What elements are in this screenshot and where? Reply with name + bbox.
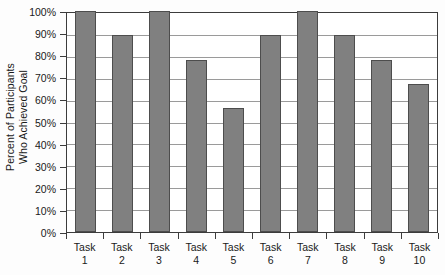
x-axis-tick-mark (103, 233, 104, 239)
y-axis-tick-label: 50% (12, 117, 56, 128)
bar-slot (141, 13, 178, 232)
y-axis-tick-label: 100% (12, 7, 56, 18)
x-axis-tick-label-line2: 6 (252, 254, 289, 267)
x-axis-tick-label-line1: Task (140, 241, 177, 254)
bar-3[interactable] (149, 11, 170, 232)
plot-area (66, 12, 438, 233)
bar-slot (67, 13, 104, 232)
x-axis-tick-mark (140, 233, 141, 239)
x-axis-tick-label-line2: 10 (401, 254, 438, 267)
bar-slot (178, 13, 215, 232)
bar-slot (400, 13, 437, 232)
x-axis-tick-label-line1: Task (215, 241, 252, 254)
x-axis-tick-label: Task7 (289, 241, 326, 273)
bar-5[interactable] (223, 108, 244, 232)
x-axis-tick-mark (364, 233, 365, 239)
bar-10[interactable] (408, 84, 429, 232)
x-axis-tick-mark (178, 233, 179, 239)
x-axis-tick-label-line1: Task (401, 241, 438, 254)
y-axis-tick-label: 90% (12, 29, 56, 40)
x-axis-tick-label: Task6 (252, 241, 289, 273)
x-axis-tick-label-line2: 1 (66, 254, 103, 267)
bar-8[interactable] (334, 35, 355, 232)
x-axis-tick-label: Task1 (66, 241, 103, 273)
y-axis-tick-label: 60% (12, 95, 56, 106)
bar-2[interactable] (112, 35, 133, 232)
bars-layer (67, 13, 437, 232)
x-axis-tick-label-line2: 7 (289, 254, 326, 267)
bar-6[interactable] (260, 35, 281, 232)
bar-slot (326, 13, 363, 232)
y-axis-tick-labels: 0%10%20%30%40%50%60%70%80%90%100% (12, 12, 56, 233)
y-axis-tick-label: 70% (12, 73, 56, 84)
y-axis-tick-label: 80% (12, 51, 56, 62)
bar-slot (252, 13, 289, 232)
x-axis-tick-label-line2: 2 (103, 254, 140, 267)
x-axis-tick-mark (438, 233, 439, 239)
x-axis-tick-label-line1: Task (178, 241, 215, 254)
x-axis-tick-labels: Task1Task2Task3Task4Task5Task6Task7Task8… (66, 241, 438, 273)
x-axis-tick-label-line2: 9 (364, 254, 401, 267)
x-axis-tick-label-line2: 5 (215, 254, 252, 267)
x-axis-tick-mark (215, 233, 216, 239)
x-axis-tick-label-line2: 4 (178, 254, 215, 267)
bar-4[interactable] (186, 60, 207, 232)
x-axis-tick-mark (289, 233, 290, 239)
bar-slot (215, 13, 252, 232)
bar-9[interactable] (371, 60, 392, 232)
x-axis-tick-label: Task4 (178, 241, 215, 273)
x-axis-tick-label-line1: Task (66, 241, 103, 254)
x-axis-tick-label-line1: Task (103, 241, 140, 254)
x-axis-tick-label: Task8 (326, 241, 363, 273)
x-axis-tick-label-line2: 3 (140, 254, 177, 267)
x-axis-tick-mark (401, 233, 402, 239)
y-axis-tick-label: 40% (12, 139, 56, 150)
x-axis-tick-label: Task5 (215, 241, 252, 273)
x-axis-tick-label-line1: Task (364, 241, 401, 254)
y-axis-tick-label: 0% (12, 228, 56, 239)
x-axis-tick-mark (326, 233, 327, 239)
x-axis-tick-label-line1: Task (252, 241, 289, 254)
bar-slot (363, 13, 400, 232)
bar-slot (289, 13, 326, 232)
x-axis-tick-mark (252, 233, 253, 239)
x-axis-tick-label: Task3 (140, 241, 177, 273)
x-axis-tick-marks (66, 233, 438, 239)
x-axis-tick-label: Task10 (401, 241, 438, 273)
y-axis-tick-label: 20% (12, 184, 56, 195)
x-axis-tick-label-line1: Task (289, 241, 326, 254)
x-axis-tick-mark (66, 233, 67, 239)
bar-chart: Percent of Participants Who Achieved Goa… (0, 0, 445, 275)
bar-slot (104, 13, 141, 232)
x-axis-tick-label-line1: Task (326, 241, 363, 254)
y-axis-tick-label: 30% (12, 161, 56, 172)
x-axis-tick-label-line2: 8 (326, 254, 363, 267)
bar-7[interactable] (297, 11, 318, 232)
y-axis-tick-label: 10% (12, 206, 56, 217)
x-axis-tick-label: Task9 (364, 241, 401, 273)
bar-1[interactable] (75, 11, 96, 232)
x-axis-tick-label: Task2 (103, 241, 140, 273)
